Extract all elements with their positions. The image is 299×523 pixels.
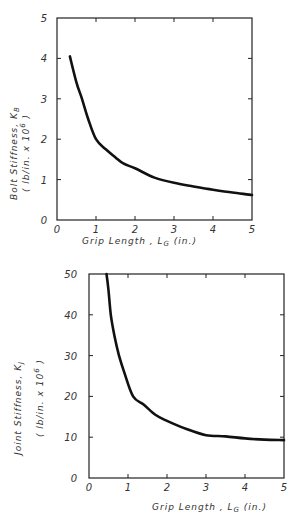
- y-tick-label: 40: [64, 310, 77, 321]
- y-tick-label: 3: [41, 94, 47, 105]
- plot-frame: [89, 274, 284, 478]
- x-tick-label: 1: [125, 482, 131, 493]
- svg-text:( lb/in. x 106 ): ( lb/in. x 106 ): [19, 114, 31, 192]
- data-line-bolt-stiffness: [70, 56, 252, 195]
- x-tick-label: 2: [164, 482, 170, 493]
- y-axis-label: Joint Stiffness, KJ ( lb/in. x 106 ): [13, 359, 45, 457]
- y-axis-label: Bolt Stiffness, KB ( lb/in. x 106 ): [9, 106, 31, 200]
- y-tick-label: 2: [41, 134, 47, 145]
- x-ticks: 012345: [86, 274, 287, 493]
- x-tick-label: 4: [242, 482, 248, 493]
- x-tick-label: 5: [281, 482, 287, 493]
- y-ticks: 012345: [41, 13, 252, 226]
- y-tick-label: 30: [64, 351, 77, 362]
- plot-frame: [57, 18, 252, 220]
- y-tick-label: 4: [41, 53, 47, 64]
- x-tick-label: 3: [203, 482, 209, 493]
- y-tick-label: 1: [41, 175, 47, 186]
- y-tick-label: 50: [64, 269, 77, 280]
- x-tick-label: 0: [86, 482, 92, 493]
- y-tick-label: 5: [41, 13, 47, 24]
- svg-text:( lb/in. x 106 ): ( lb/in. x 106 ): [33, 359, 45, 437]
- x-tick-label: 0: [54, 224, 60, 235]
- svg-text:Bolt Stiffness, KB: Bolt Stiffness, KB: [9, 106, 21, 200]
- x-tick-label: 3: [171, 224, 177, 235]
- y-ticks: 01020304050: [64, 269, 284, 484]
- chart-joint-stiffness: 01020304050 012345 Grip Length , LG (in.…: [13, 269, 287, 514]
- x-axis-label: Grip Length , LG (in.): [82, 236, 197, 248]
- y-tick-label: 0: [71, 473, 77, 484]
- x-tick-label: 1: [93, 224, 99, 235]
- x-ticks: 012345: [54, 18, 255, 235]
- x-tick-label: 5: [249, 224, 255, 235]
- y-tick-label: 0: [41, 215, 47, 226]
- data-line-joint-stiffness: [107, 274, 285, 440]
- x-tick-label: 2: [132, 224, 138, 235]
- y-tick-label: 10: [64, 432, 77, 443]
- chart-bolt-stiffness: 012345 012345 Grip Length , LG (in.) Bol…: [9, 13, 255, 248]
- figure: 012345 012345 Grip Length , LG (in.) Bol…: [0, 0, 299, 523]
- y-tick-label: 20: [64, 391, 77, 402]
- svg-text:Joint Stiffness, KJ: Joint Stiffness, KJ: [13, 361, 25, 457]
- x-tick-label: 4: [210, 224, 216, 235]
- x-axis-label: Grip Length , LG (in.): [152, 502, 267, 514]
